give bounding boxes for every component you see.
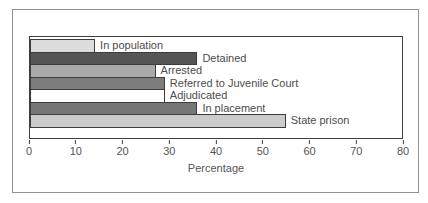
x-tick-10: 10 (70, 140, 82, 157)
tick-mark (75, 140, 76, 144)
tick-label: 10 (70, 146, 82, 157)
x-tick-20: 20 (116, 140, 128, 157)
tick-mark (29, 140, 30, 144)
tick-mark (262, 140, 263, 144)
tick-mark (309, 140, 310, 144)
x-tick-50: 50 (257, 140, 269, 157)
figure-canvas: In populationDetainedArrestedReferred to… (0, 0, 428, 203)
bar-adjudicated (30, 89, 165, 103)
x-tick-0: 0 (26, 140, 32, 157)
x-tick-30: 30 (163, 140, 175, 157)
bar-label: In population (100, 40, 163, 51)
bar-row: Adjudicated (30, 89, 402, 103)
tick-mark (403, 140, 404, 144)
x-tick-80: 80 (397, 140, 409, 157)
bar-row: Referred to Juvenile Court (30, 77, 402, 91)
bar-label: Arrested (161, 65, 203, 76)
bar-state-prison (30, 114, 286, 128)
tick-label: 80 (397, 146, 409, 157)
tick-label: 0 (26, 146, 32, 157)
bar-label: Referred to Juvenile Court (170, 78, 298, 89)
bar-row: State prison (30, 114, 402, 128)
bar-rows: In populationDetainedArrestedReferred to… (30, 39, 402, 128)
bar-in-placement (30, 102, 197, 116)
bar-row: In population (30, 39, 402, 53)
bar-label: Adjudicated (170, 90, 228, 101)
x-tick-60: 60 (303, 140, 315, 157)
bar-row: Detained (30, 52, 402, 66)
tick-mark (122, 140, 123, 144)
tick-label: 60 (303, 146, 315, 157)
tick-label: 40 (210, 146, 222, 157)
tick-mark (356, 140, 357, 144)
x-tick-70: 70 (350, 140, 362, 157)
tick-mark (169, 140, 170, 144)
tick-label: 20 (116, 146, 128, 157)
x-axis-title: Percentage (29, 162, 403, 174)
tick-mark (216, 140, 217, 144)
plot-area: In populationDetainedArrestedReferred to… (29, 36, 403, 139)
bar-row: In placement (30, 102, 402, 116)
bar-arrested (30, 64, 156, 78)
bar-label: State prison (291, 115, 350, 126)
tick-label: 30 (163, 146, 175, 157)
bar-label: In placement (202, 103, 265, 114)
bar-detained (30, 52, 197, 66)
bar-row: Arrested (30, 64, 402, 78)
x-tick-40: 40 (210, 140, 222, 157)
figure-border-box: In populationDetainedArrestedReferred to… (12, 9, 419, 193)
bar-label: Detained (202, 53, 246, 64)
bar-in-population (30, 39, 95, 53)
tick-label: 50 (257, 146, 269, 157)
bar-referred-to-juvenile-court (30, 77, 165, 91)
tick-label: 70 (350, 146, 362, 157)
